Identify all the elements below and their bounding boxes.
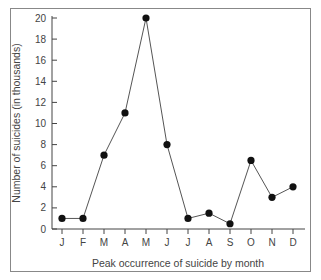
data-point bbox=[289, 183, 296, 190]
data-point bbox=[226, 220, 233, 227]
x-tick-label: J bbox=[186, 237, 191, 248]
y-tick-label: 10 bbox=[35, 118, 47, 129]
data-point bbox=[247, 157, 254, 164]
x-axis: JFMAMJJASOND bbox=[52, 229, 305, 248]
y-tick-label: 2 bbox=[40, 202, 46, 213]
y-tick-label: 14 bbox=[35, 76, 47, 87]
x-axis-title: Peak occurrence of suicide by month bbox=[92, 257, 264, 269]
y-tick-label: 12 bbox=[35, 97, 47, 108]
data-point bbox=[205, 210, 212, 217]
x-tick-label: N bbox=[268, 237, 275, 248]
line-chart: 02468101214161820 JFMAMJJASOND Peak occu… bbox=[0, 0, 321, 280]
data-point bbox=[184, 215, 191, 222]
y-tick-label: 18 bbox=[35, 34, 47, 45]
data-point bbox=[79, 215, 86, 222]
x-tick-label: F bbox=[80, 237, 86, 248]
y-tick-label: 20 bbox=[35, 13, 47, 24]
y-tick-label: 6 bbox=[40, 160, 46, 171]
series-line bbox=[62, 18, 293, 224]
y-tick-label: 4 bbox=[40, 181, 46, 192]
y-axis: 02468101214161820 bbox=[35, 13, 57, 235]
x-tick-label: M bbox=[100, 237, 108, 248]
x-tick-label: J bbox=[60, 237, 65, 248]
x-tick-label: M bbox=[142, 237, 150, 248]
data-point bbox=[142, 14, 149, 21]
data-series bbox=[58, 14, 296, 227]
chart-frame bbox=[11, 9, 311, 272]
data-point bbox=[268, 194, 275, 201]
y-axis-title: Number of suicides (in thousands) bbox=[10, 43, 22, 202]
data-point bbox=[100, 152, 107, 159]
x-tick-label: S bbox=[227, 237, 234, 248]
x-tick-label: A bbox=[122, 237, 129, 248]
y-tick-label: 16 bbox=[35, 55, 47, 66]
y-tick-label: 8 bbox=[40, 139, 46, 150]
y-tick-label: 0 bbox=[40, 224, 46, 235]
x-tick-label: J bbox=[165, 237, 170, 248]
data-point bbox=[58, 215, 65, 222]
x-tick-label: O bbox=[247, 237, 255, 248]
data-point bbox=[121, 109, 128, 116]
x-tick-label: D bbox=[289, 237, 296, 248]
x-tick-label: A bbox=[206, 237, 213, 248]
data-point bbox=[163, 141, 170, 148]
